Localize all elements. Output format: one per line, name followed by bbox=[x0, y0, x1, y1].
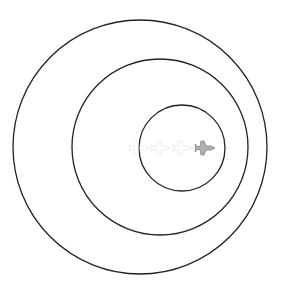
jet-solid-icon bbox=[195, 141, 215, 155]
concentric-circles-diagram bbox=[0, 0, 289, 300]
jet-ghost-3-icon bbox=[173, 141, 193, 155]
jet-ghost-2-icon bbox=[151, 141, 171, 155]
